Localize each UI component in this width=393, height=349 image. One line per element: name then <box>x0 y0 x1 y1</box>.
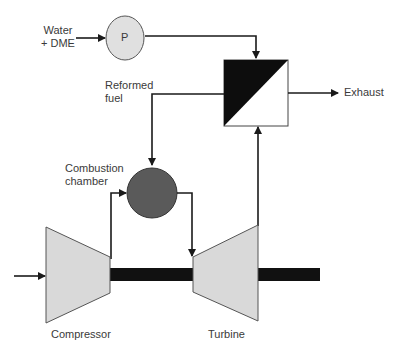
feed-label-line2: + DME <box>36 37 80 50</box>
pump-to-reformer-line <box>145 36 256 58</box>
reformed-label-line1: Reformed <box>105 79 153 92</box>
compressor <box>46 227 110 323</box>
feed-label: Water + DME <box>36 24 80 50</box>
reformer-heat-exchanger <box>224 60 288 126</box>
combustion-chamber-label: Combustion chamber <box>65 162 124 188</box>
combustion-label-line1: Combustion <box>65 162 124 175</box>
combustion-label-line2: chamber <box>65 175 124 188</box>
compressor-to-combustor-line <box>111 193 126 259</box>
reformed-label-line2: fuel <box>105 92 153 105</box>
process-diagram <box>0 0 393 349</box>
exhaust-label: Exhaust <box>344 86 384 99</box>
feed-label-line1: Water <box>36 24 80 37</box>
compressor-label: Compressor <box>51 328 111 341</box>
turbine-label: Turbine <box>208 328 245 341</box>
reformed-fuel-line <box>152 94 224 165</box>
combustor-to-turbine-line <box>177 193 192 256</box>
turbine <box>193 225 258 321</box>
pump-label: P <box>121 31 128 44</box>
combustion-chamber <box>127 168 177 218</box>
reformed-fuel-label: Reformed fuel <box>105 79 153 105</box>
